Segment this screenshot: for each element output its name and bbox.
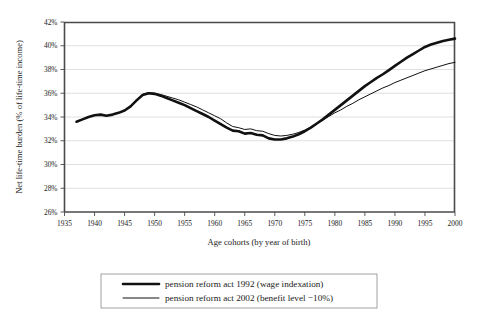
x-tick-label: 1980 [327, 219, 342, 228]
x-tick-label: 1935 [57, 219, 72, 228]
y-tick-label: 38% [44, 65, 58, 74]
y-tick-label: 36% [44, 89, 58, 98]
x-tick-label: 1975 [297, 219, 312, 228]
y-tick-label: 32% [44, 136, 58, 145]
legend-label-2002: pension reform act 2002 (benefit level −… [165, 293, 333, 303]
chart-figure: 26%28%30%32%34%36%38%40%42% 193519401945… [0, 0, 477, 324]
x-tick-label: 1955 [177, 219, 192, 228]
legend-label-1992: pension reform act 1992 (wage indexation… [165, 279, 323, 289]
y-axis-title: Net life-time burden (% of life-time inc… [14, 40, 24, 194]
y-tick-label: 40% [44, 41, 58, 50]
x-tick-label: 1945 [117, 219, 132, 228]
y-tick-label: 28% [44, 184, 58, 193]
x-tick-label: 1990 [388, 219, 403, 228]
x-tick-label: 1965 [237, 219, 252, 228]
y-tick-label: 42% [44, 18, 58, 27]
x-tick-label: 1940 [87, 219, 102, 228]
y-tick-label: 30% [44, 160, 58, 169]
x-tick-label: 1950 [147, 219, 162, 228]
x-tick-label: 1960 [207, 219, 222, 228]
line-chart-svg: 26%28%30%32%34%36%38%40%42% 193519401945… [0, 0, 477, 324]
y-tick-label: 34% [44, 113, 58, 122]
x-tick-label: 2000 [448, 219, 463, 228]
x-tick-label: 1985 [357, 219, 372, 228]
legend: pension reform act 1992 (wage indexation… [101, 274, 377, 308]
y-tick-label: 26% [44, 208, 58, 217]
x-axis-title: Age cohorts (by year of birth) [208, 237, 311, 247]
x-tick-label: 1995 [418, 219, 433, 228]
x-tick-label: 1970 [267, 219, 282, 228]
